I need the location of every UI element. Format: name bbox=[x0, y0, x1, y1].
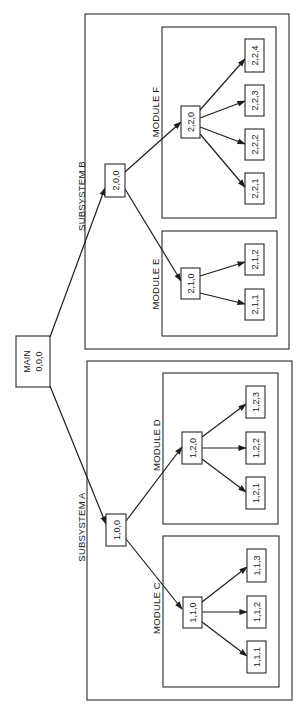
leaf-2,2,2-label: 2,2,2 bbox=[250, 134, 260, 154]
leaf-2,2,4-label: 2,2,4 bbox=[250, 45, 260, 65]
leaf-2,2,1: 2,2,1 bbox=[245, 173, 264, 204]
module-d-label: MODULE D bbox=[151, 419, 162, 471]
edge-1,2,0-1,2,3 bbox=[202, 404, 246, 437]
node-1,2,0-label: 1,2,0 bbox=[188, 438, 198, 458]
node-2,2,0: 2,2,0 bbox=[181, 106, 200, 138]
node-2,0,0: 2,0,0 bbox=[105, 164, 125, 197]
subsystem-a-label: SUBSYSTEM A bbox=[76, 492, 87, 562]
leaf-1,2,3: 1,2,3 bbox=[246, 386, 265, 418]
hierarchy-diagram: MAIN 0,0,0 SUBSYSTEM B SUBSYSTEM A MODUL… bbox=[0, 0, 305, 710]
edge-2,1,0-2,1,2 bbox=[200, 262, 245, 276]
edge-1,1,0-1,1,3 bbox=[202, 567, 247, 602]
leaf-2,2,2: 2,2,2 bbox=[245, 129, 264, 160]
leaf-1,1,2-label: 1,1,2 bbox=[252, 602, 262, 622]
node-2,2,0-label: 2,2,0 bbox=[186, 112, 196, 132]
leaf-2,2,4: 2,2,4 bbox=[245, 39, 264, 72]
node-2,0,0-label: 2,0,0 bbox=[111, 170, 121, 190]
leaf-1,2,3-label: 1,2,3 bbox=[251, 392, 261, 412]
module-e-label: MODULE E bbox=[150, 258, 161, 309]
leaf-2,2,1-label: 2,2,1 bbox=[250, 178, 260, 198]
node-1,0,0: 1,0,0 bbox=[106, 514, 126, 546]
node-main: MAIN 0,0,0 bbox=[16, 336, 50, 387]
module-f-label: MODULE F bbox=[150, 87, 161, 138]
leaf-1,1,3-label: 1,1,3 bbox=[252, 555, 262, 575]
node-2,1,0-label: 2,1,0 bbox=[186, 273, 196, 293]
leaf-2,1,2: 2,1,2 bbox=[245, 244, 264, 275]
node-1,2,0: 1,2,0 bbox=[182, 432, 202, 464]
leaf-1,2,2-label: 1,2,2 bbox=[251, 438, 261, 458]
edge-1,1,0-1,1,1 bbox=[202, 622, 247, 656]
leaf-1,2,1: 1,2,1 bbox=[246, 477, 265, 509]
leaf-2,1,1: 2,1,1 bbox=[245, 289, 264, 320]
edges bbox=[50, 59, 247, 656]
node-main-code: 0,0,0 bbox=[34, 351, 44, 371]
leaf-1,2,1-label: 1,2,1 bbox=[251, 483, 261, 503]
node-1,1,0: 1,1,0 bbox=[183, 597, 202, 628]
leaf-1,1,3: 1,1,3 bbox=[247, 549, 266, 582]
edge-2,2,0-2,2,3 bbox=[200, 101, 245, 118]
leaf-1,2,2: 1,2,2 bbox=[246, 432, 265, 464]
leaf-2,1,2-label: 2,1,2 bbox=[250, 249, 260, 269]
leaf-2,2,3: 2,2,3 bbox=[245, 85, 264, 116]
edge-2,1,0-2,1,1 bbox=[200, 293, 245, 304]
leaf-2,1,1-label: 2,1,1 bbox=[250, 294, 260, 314]
leaf-1,1,1-label: 1,1,1 bbox=[252, 647, 262, 667]
leaf-2,2,3-label: 2,2,3 bbox=[250, 90, 260, 110]
node-2,1,0: 2,1,0 bbox=[181, 268, 200, 299]
node-1,1,0-label: 1,1,0 bbox=[188, 602, 198, 622]
leaf-1,1,1: 1,1,1 bbox=[247, 641, 266, 673]
subsystem-b-label: SUBSYSTEM B bbox=[76, 161, 87, 231]
edge-2,2,0-2,2,4 bbox=[200, 59, 245, 110]
node-1,0,0-label: 1,0,0 bbox=[112, 520, 122, 540]
edge-1,2,0-1,2,1 bbox=[202, 459, 246, 492]
leaf-1,1,2: 1,1,2 bbox=[247, 596, 266, 628]
node-main-title: MAIN bbox=[22, 350, 32, 373]
module-c-label: MODULE C bbox=[151, 582, 162, 634]
